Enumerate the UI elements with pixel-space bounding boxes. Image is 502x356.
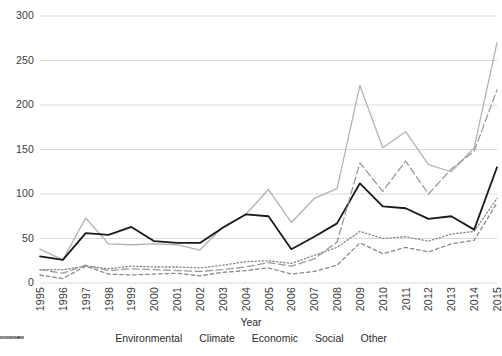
legend-label: Economic <box>252 333 298 344</box>
legend-item-other[interactable]: Other <box>361 333 387 344</box>
x-tick-label: 1999 <box>125 287 137 311</box>
x-tick-label: 2004 <box>240 287 252 311</box>
x-tick-label: 2012 <box>422 287 434 311</box>
line-chart: 050100150200250300 199519961997199819992… <box>0 0 502 356</box>
legend-label: Social <box>315 333 344 344</box>
y-tick-label: 100 <box>0 187 34 199</box>
x-axis-title: Year <box>0 316 502 328</box>
y-tick-label: 50 <box>0 232 34 244</box>
y-tick-label: 200 <box>0 98 34 110</box>
x-tick-label: 2013 <box>445 287 457 311</box>
x-tick-label: 1997 <box>80 287 92 311</box>
x-tick-label: 2014 <box>468 287 480 311</box>
x-tick-label: 2009 <box>354 287 366 311</box>
x-tick-label: 2008 <box>331 287 343 311</box>
legend-item-social[interactable]: Social <box>315 333 344 344</box>
x-tick-label: 2010 <box>377 287 389 311</box>
x-tick-label: 2002 <box>194 287 206 311</box>
legend-item-economic[interactable]: Economic <box>252 333 298 344</box>
legend-item-climate[interactable]: Climate <box>199 333 235 344</box>
x-tick-label: 2003 <box>217 287 229 311</box>
legend-label: Climate <box>199 333 235 344</box>
x-tick-label: 2006 <box>285 287 297 311</box>
x-tick-label: 2001 <box>171 287 183 311</box>
legend-label: Other <box>361 333 387 344</box>
legend-label: Environmental <box>115 333 182 344</box>
y-tick-label: 150 <box>0 143 34 155</box>
series-line-economic <box>40 167 497 260</box>
legend-swatch-other <box>0 333 24 342</box>
series-line-social <box>40 90 497 273</box>
x-tick-label: 2015 <box>491 287 502 311</box>
y-tick-label: 0 <box>0 276 34 288</box>
y-tick-label: 300 <box>0 9 34 21</box>
x-tick-label: 1998 <box>103 287 115 311</box>
series-line-environmental <box>40 43 497 260</box>
x-tick-label: 1995 <box>34 287 46 311</box>
x-tick-label: 2000 <box>148 287 160 311</box>
x-tick-label: 1996 <box>57 287 69 311</box>
x-tick-label: 2011 <box>400 287 412 310</box>
y-tick-label: 250 <box>0 54 34 66</box>
x-tick-label: 2007 <box>308 287 320 311</box>
chart-legend: EnvironmentalClimateEconomicSocialOther <box>0 333 502 344</box>
x-tick-label: 2005 <box>263 287 275 311</box>
legend-item-environmental[interactable]: Environmental <box>115 333 182 344</box>
